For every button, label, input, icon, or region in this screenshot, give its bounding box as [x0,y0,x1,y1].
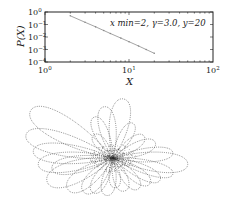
y-axis-label: P(X) [15,25,26,48]
svg-text:100: 100 [28,7,42,17]
svg-text:10−2: 10−2 [28,32,46,42]
svg-text:10−1: 10−1 [28,20,46,30]
svg-text:100: 100 [38,65,52,75]
svg-text:102: 102 [206,65,220,75]
annotation: x min=2, γ=3.0, y=20 [110,18,206,28]
figure: x min=2, γ=3.0, y=20 100 101 102 100 10−… [0,0,230,216]
svg-text:101: 101 [122,65,136,75]
x-axis-label: X [125,76,134,87]
trajectory-plot [26,99,188,196]
distribution-plot: x min=2, γ=3.0, y=20 100 101 102 100 10−… [15,7,220,87]
x-tick-labels: 100 101 102 [38,65,220,75]
svg-text:10−3: 10−3 [28,45,47,55]
trajectory-core [90,145,136,173]
y-tick-labels: 100 10−1 10−2 10−3 10−4 [28,7,47,67]
